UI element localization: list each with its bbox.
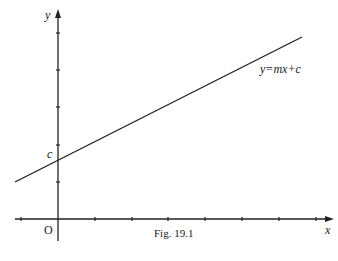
y-axis-label: y xyxy=(45,9,50,21)
line-equation-label: y=mx+c xyxy=(260,63,301,75)
x-axis-label: x xyxy=(325,224,330,236)
origin-label: O xyxy=(44,224,53,236)
y-axis-arrow-icon xyxy=(55,9,61,18)
intercept-label: c xyxy=(47,148,52,160)
diagram-canvas xyxy=(0,0,338,261)
x-axis-arrow-icon xyxy=(325,216,334,222)
figure-caption: Fig. 19.1 xyxy=(154,228,193,239)
